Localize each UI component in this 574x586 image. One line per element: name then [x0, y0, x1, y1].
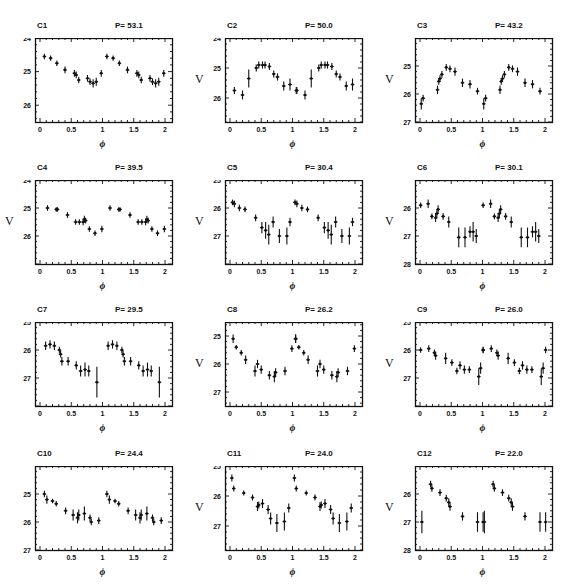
svg-text:0: 0 — [418, 410, 422, 417]
svg-text:0.5: 0.5 — [256, 126, 266, 133]
svg-text:2: 2 — [543, 126, 547, 133]
svg-text:0.5: 0.5 — [446, 410, 456, 417]
svg-text:25: 25 — [403, 322, 411, 326]
svg-text:0: 0 — [38, 126, 42, 133]
svg-text:0.5: 0.5 — [66, 554, 76, 561]
panel-name: C4 — [37, 163, 47, 172]
svg-text:1: 1 — [101, 554, 105, 561]
svg-text:24: 24 — [23, 180, 31, 184]
light-curve-plot: 00.511.52252627 — [205, 322, 372, 426]
panel-period: P= 43.2 — [495, 21, 523, 30]
svg-text:1: 1 — [291, 126, 295, 133]
svg-text:26: 26 — [213, 95, 221, 102]
svg-text:26: 26 — [403, 491, 411, 498]
svg-text:0: 0 — [38, 554, 42, 561]
svg-text:1: 1 — [101, 268, 105, 275]
svg-text:2: 2 — [163, 410, 167, 417]
svg-text:1.5: 1.5 — [319, 410, 329, 417]
svg-text:2: 2 — [353, 554, 357, 561]
panel-period: P= 30.4 — [305, 163, 333, 172]
light-curve-plot: 00.511.52262728 — [395, 466, 562, 570]
y-axis-label: V — [5, 214, 14, 229]
svg-text:26: 26 — [403, 347, 411, 354]
svg-text:1: 1 — [481, 554, 485, 561]
svg-text:1: 1 — [291, 554, 295, 561]
svg-text:1: 1 — [481, 268, 485, 275]
svg-text:0.5: 0.5 — [256, 410, 266, 417]
svg-text:0: 0 — [228, 126, 232, 133]
svg-text:1.5: 1.5 — [129, 268, 139, 275]
svg-text:2: 2 — [543, 410, 547, 417]
svg-text:2: 2 — [353, 410, 357, 417]
panel-period: P= 50.0 — [305, 21, 333, 30]
panel-name: C8 — [227, 305, 237, 314]
svg-text:0.5: 0.5 — [256, 554, 266, 561]
svg-text:25: 25 — [213, 466, 221, 470]
light-curve-plot: 00.511.52252627 — [395, 38, 562, 142]
svg-text:1.5: 1.5 — [319, 554, 329, 561]
svg-text:1.5: 1.5 — [129, 126, 139, 133]
y-axis-label: V — [385, 72, 394, 87]
svg-text:24: 24 — [213, 38, 221, 42]
y-axis-label: V — [195, 500, 204, 515]
svg-text:1.5: 1.5 — [509, 410, 519, 417]
panel-period: P= 24.4 — [115, 449, 143, 458]
y-axis-label: V — [195, 72, 204, 87]
y-axis-label: V — [385, 500, 394, 515]
panel-period: P= 26.2 — [305, 305, 333, 314]
svg-text:1.5: 1.5 — [319, 126, 329, 133]
svg-text:25: 25 — [213, 65, 221, 72]
svg-text:1.5: 1.5 — [129, 554, 139, 561]
y-axis-label: V — [195, 356, 204, 371]
light-curve-plot: 00.511.52252627 — [15, 322, 182, 426]
svg-text:0.5: 0.5 — [446, 126, 456, 133]
svg-text:1: 1 — [291, 410, 295, 417]
panel-period: P= 22.0 — [495, 449, 523, 458]
light-curve-plot: 00.511.52242526 — [15, 180, 182, 284]
panel-name: C12 — [417, 449, 432, 458]
svg-text:1: 1 — [291, 268, 295, 275]
svg-text:25: 25 — [23, 205, 31, 212]
svg-text:0.5: 0.5 — [446, 268, 456, 275]
panel-name: C7 — [37, 305, 47, 314]
svg-text:0: 0 — [228, 268, 232, 275]
svg-text:27: 27 — [23, 375, 31, 382]
svg-text:0.5: 0.5 — [256, 268, 266, 275]
svg-text:27: 27 — [403, 519, 411, 526]
light-curve-plot: 00.511.52252627 — [205, 466, 372, 570]
svg-text:1: 1 — [101, 410, 105, 417]
y-axis-label: V — [385, 214, 394, 229]
svg-text:24: 24 — [23, 38, 31, 42]
svg-text:1.5: 1.5 — [319, 268, 329, 275]
svg-text:25: 25 — [403, 63, 411, 70]
svg-text:0: 0 — [418, 554, 422, 561]
svg-text:25: 25 — [213, 333, 221, 340]
svg-text:0: 0 — [38, 268, 42, 275]
y-axis-label: V — [195, 214, 204, 229]
svg-text:2: 2 — [353, 126, 357, 133]
light-curve-plot: 00.511.52242526 — [205, 38, 372, 142]
svg-text:27: 27 — [403, 375, 411, 382]
svg-text:0.5: 0.5 — [66, 126, 76, 133]
panel-period: P= 29.5 — [115, 305, 143, 314]
panel-name: C5 — [227, 163, 237, 172]
panel-period: P= 39.5 — [115, 163, 143, 172]
svg-text:27: 27 — [213, 389, 221, 396]
panel-name: C9 — [417, 305, 427, 314]
svg-text:26: 26 — [23, 519, 31, 526]
svg-text:2: 2 — [163, 268, 167, 275]
svg-text:0: 0 — [228, 410, 232, 417]
panel-period: P= 24.0 — [305, 449, 333, 458]
svg-text:27: 27 — [23, 547, 31, 554]
svg-text:0.5: 0.5 — [66, 410, 76, 417]
svg-text:0: 0 — [38, 410, 42, 417]
light-curve-plot: 00.511.52262728 — [395, 180, 562, 284]
svg-text:2: 2 — [543, 268, 547, 275]
svg-text:1.5: 1.5 — [509, 554, 519, 561]
svg-text:26: 26 — [403, 205, 411, 212]
svg-text:0: 0 — [418, 268, 422, 275]
panel-period: P= 26.0 — [495, 305, 523, 314]
svg-text:2: 2 — [353, 268, 357, 275]
svg-text:26: 26 — [23, 233, 31, 240]
svg-text:1: 1 — [101, 126, 105, 133]
